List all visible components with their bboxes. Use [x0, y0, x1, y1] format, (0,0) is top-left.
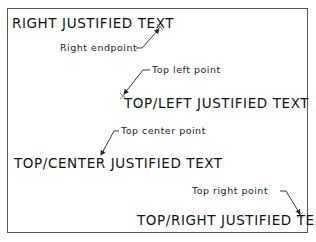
top-left-point-label: Top left point [151, 64, 221, 75]
right-justified-text: RIGHT JUSTIFIED TEXT [12, 15, 174, 31]
top-left-justified-text: TOP/LEFT JUSTIFIED TEXT [123, 95, 309, 111]
top-right-leader [280, 191, 300, 214]
top-center-point-label: Top center point [120, 125, 206, 136]
justification-diagram: RIGHT JUSTIFIED TEXT Right endpoint Top … [0, 0, 316, 242]
top-left-leader [124, 70, 150, 94]
top-right-justified-text: TOP/RIGHT JUSTIFIED TEXT [136, 212, 316, 228]
right-endpoint-leader [136, 29, 159, 48]
top-right-point-label: Top right point [191, 185, 268, 196]
top-center-leader [101, 131, 119, 155]
right-endpoint-label: Right endpoint [60, 42, 137, 53]
top-center-justified-text: TOP/CENTER JUSTIFIED TEXT [13, 155, 223, 171]
